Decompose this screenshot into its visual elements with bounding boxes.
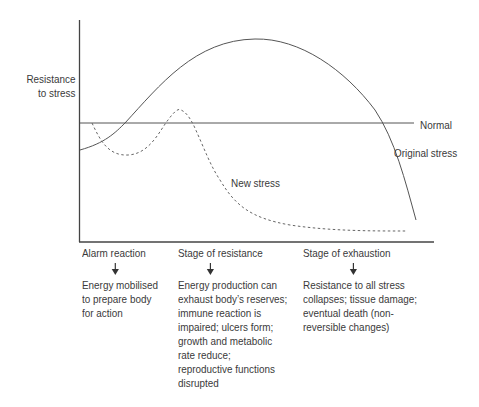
stage-description: Resistance to all stress collapses; tiss…	[303, 278, 417, 334]
description-line: disrupted	[178, 376, 287, 390]
new-stress-label: New stress	[231, 176, 280, 190]
description-line: Energy mobilised	[82, 278, 158, 292]
original-stress-curve	[80, 39, 416, 220]
stage-exhaustion: Stage of exhaustion Resistance to all st…	[303, 246, 417, 334]
new-stress-curve	[92, 109, 406, 231]
stage-description: Energy production can exhaust body’s res…	[178, 278, 287, 390]
description-line: immune reaction is	[178, 306, 287, 320]
description-line: impaired; ulcers form;	[178, 320, 287, 334]
stage-heading: Alarm reaction	[82, 246, 158, 260]
y-axis-label: Resistance to stress	[26, 72, 75, 100]
description-line: for action	[82, 306, 158, 320]
description-line: reproductive functions	[178, 362, 287, 376]
description-line: growth and metabolic	[178, 334, 287, 348]
down-arrow-icon	[178, 263, 241, 275]
description-line: reversible changes)	[303, 320, 417, 334]
stage-alarm: Alarm reaction Energy mobilised to prepa…	[82, 246, 158, 320]
description-line: rate reduce;	[178, 348, 287, 362]
down-arrow-icon	[303, 263, 366, 275]
stage-resistance: Stage of resistance Energy production ca…	[178, 246, 287, 390]
description-line: Energy production can	[178, 278, 287, 292]
y-axis-label-line2: to stress	[26, 86, 75, 100]
y-axis-label-line1: Resistance	[26, 72, 75, 86]
stage-heading: Stage of resistance	[178, 246, 287, 260]
description-line: to prepare body	[82, 292, 158, 306]
description-line: Resistance to all stress	[303, 278, 417, 292]
stage-heading: Stage of exhaustion	[303, 246, 417, 260]
original-stress-label: Original stress	[394, 146, 457, 160]
description-line: collapses; tissue damage;	[303, 292, 417, 306]
description-line: eventual death (non-	[303, 306, 417, 320]
down-arrow-icon	[82, 263, 145, 275]
normal-label: Normal	[420, 118, 452, 132]
stage-description: Energy mobilised to prepare body for act…	[82, 278, 158, 320]
description-line: exhaust body’s reserves;	[178, 292, 287, 306]
